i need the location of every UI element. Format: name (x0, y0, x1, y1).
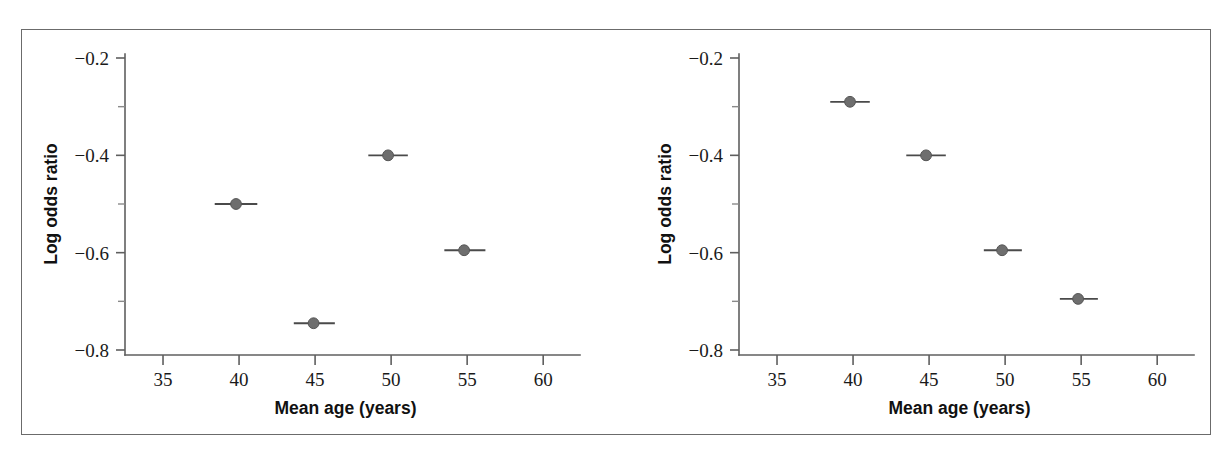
data-point-marker (231, 199, 242, 210)
x-tick-label: 55 (1072, 369, 1091, 390)
y-tick-label: −0.4 (75, 145, 110, 166)
data-point-marker (997, 245, 1008, 256)
data-point-marker (1073, 294, 1084, 305)
x-tick-label: 40 (230, 369, 249, 390)
data-point-marker (383, 150, 394, 161)
x-tick-label: 60 (534, 369, 553, 390)
x-tick-label: 35 (768, 369, 787, 390)
y-tick-label: −0.4 (689, 145, 724, 166)
y-tick-label: −0.6 (75, 243, 109, 264)
data-point-group (906, 150, 946, 161)
figure-container: −0.2−0.4−0.6−0.8354045505560Mean age (ye… (0, 0, 1228, 449)
data-point-group (368, 150, 408, 161)
scatter-plot-right: −0.2−0.4−0.6−0.8354045505560Mean age (ye… (614, 0, 1228, 449)
x-tick-label: 45 (920, 369, 939, 390)
x-axis-title: Mean age (years) (274, 398, 416, 418)
chart-panel-right: −0.2−0.4−0.6−0.8354045505560Mean age (ye… (614, 0, 1228, 449)
data-point-group (830, 96, 870, 107)
data-point-group (984, 245, 1022, 256)
chart-panel-left: −0.2−0.4−0.6−0.8354045505560Mean age (ye… (0, 0, 614, 449)
data-point-group (215, 199, 258, 210)
x-tick-label: 40 (844, 369, 863, 390)
y-tick-label: −0.2 (75, 48, 109, 69)
data-point-group (1060, 294, 1098, 305)
scatter-plot-left: −0.2−0.4−0.6−0.8354045505560Mean age (ye… (0, 0, 614, 449)
data-point-group (294, 318, 335, 329)
x-tick-label: 50 (382, 369, 401, 390)
x-tick-label: 35 (154, 369, 173, 390)
data-point-marker (845, 96, 856, 107)
x-tick-label: 45 (306, 369, 325, 390)
y-axis-title: Log odds ratio (655, 143, 675, 265)
y-tick-label: −0.8 (75, 340, 109, 361)
x-tick-label: 60 (1148, 369, 1167, 390)
data-point-marker (308, 318, 319, 329)
x-tick-label: 50 (996, 369, 1015, 390)
y-tick-label: −0.8 (689, 340, 723, 361)
data-point-marker (459, 245, 470, 256)
y-axis-title: Log odds ratio (41, 143, 61, 265)
y-tick-label: −0.2 (689, 48, 723, 69)
y-tick-label: −0.6 (689, 243, 723, 264)
x-tick-label: 55 (458, 369, 477, 390)
data-point-group (444, 245, 485, 256)
x-axis-title: Mean age (years) (888, 398, 1030, 418)
data-point-marker (921, 150, 932, 161)
